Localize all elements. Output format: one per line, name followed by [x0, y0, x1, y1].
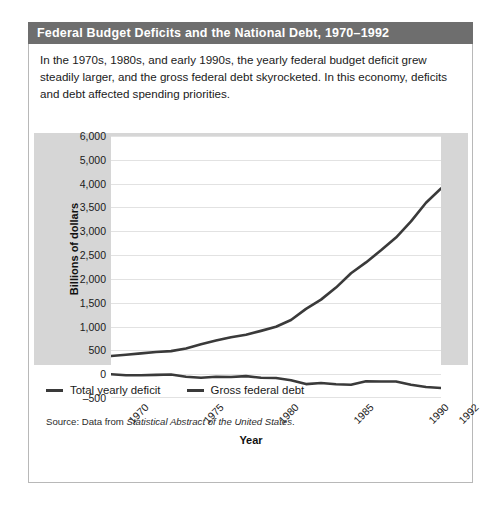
figure-title-bar: Federal Budget Deficits and the National… — [28, 22, 473, 44]
page-title: Federal Budget Deficits and the National… — [37, 26, 389, 40]
chart-panel: Billions of dollars 6,0005,0004,0003,500… — [34, 133, 468, 365]
x-axis-tick: 1992 — [456, 401, 481, 426]
y-axis-tick: 500 — [44, 344, 106, 356]
series-line — [111, 188, 441, 356]
y-axis-tick: 1,000 — [44, 321, 106, 333]
plot-area — [111, 136, 441, 398]
figure-body: In the 1970s, 1980s, and early 1990s, th… — [28, 44, 473, 483]
y-axis-tick: 3,500 — [44, 201, 106, 213]
y-axis-tick: 1,500 — [44, 297, 106, 309]
y-axis-tick: 6,000 — [44, 130, 106, 142]
series-lines — [111, 136, 441, 398]
x-axis-tick: 1985 — [351, 401, 376, 426]
legend-label: Total yearly deficit — [70, 384, 161, 396]
figure-caption: In the 1970s, 1980s, and early 1990s, th… — [40, 52, 454, 102]
chart-legend: Total yearly deficitGross federal debt — [46, 384, 304, 396]
legend-label: Gross federal debt — [211, 384, 305, 396]
x-axis-tick: 1990 — [426, 401, 451, 426]
source-suffix: . — [292, 416, 295, 427]
source-prefix: Source: Data from — [46, 416, 127, 427]
source-note: Source: Data from Statistical Abstract o… — [46, 416, 295, 427]
y-axis-tick: 4,000 — [44, 178, 106, 190]
legend-swatch-icon — [46, 389, 63, 392]
legend-swatch-icon — [187, 389, 204, 392]
y-axis-tick: 3,000 — [44, 225, 106, 237]
legend-item: Gross federal debt — [187, 384, 305, 396]
y-axis-tick: 5,000 — [44, 154, 106, 166]
figure-card: Federal Budget Deficits and the National… — [28, 22, 473, 483]
x-axis-label: Year — [34, 434, 468, 446]
legend-item: Total yearly deficit — [46, 384, 161, 396]
source-title: Statistical Abstract of the United State… — [127, 416, 292, 427]
y-axis-tick: 0 — [44, 368, 106, 380]
y-axis-tick: 2,500 — [44, 249, 106, 261]
y-axis-tick: 2,000 — [44, 273, 106, 285]
